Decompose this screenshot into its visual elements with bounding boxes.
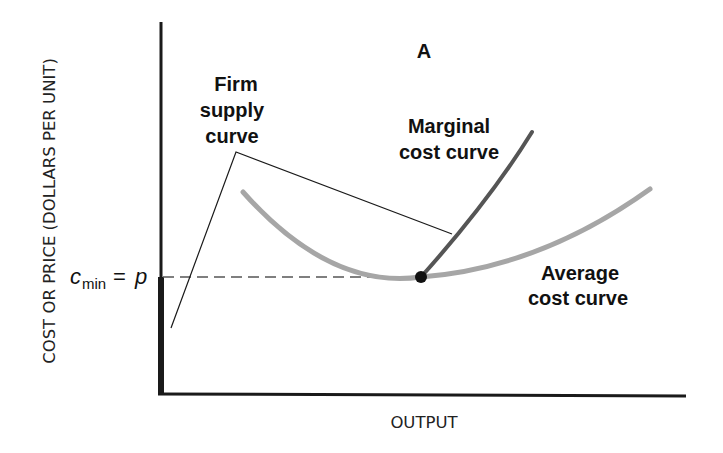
average-label-line1: Average [541, 262, 619, 284]
marginal-label-line1: Marginal [408, 115, 490, 137]
y-axis-label: COST OR PRICE (DOLLARS PER UNIT) [40, 58, 59, 364]
supply-label-line2: supply [200, 99, 265, 121]
panel-label: A [417, 40, 431, 62]
average-label-line2: cost curve [528, 287, 628, 309]
min-subscript: min [82, 275, 106, 292]
cost-symbol: c [70, 264, 81, 289]
supply-label-line3: curve [205, 125, 258, 147]
supply-pointer-lines [171, 152, 452, 328]
minimum-point [415, 271, 427, 283]
cost-curve-diagram: A Firm supply curve Marginal cost curve … [0, 0, 723, 453]
x-axis [158, 394, 686, 396]
supply-label-line1: Firm [214, 73, 257, 95]
x-axis-label: OUTPUT [390, 413, 458, 432]
price-marker-label: c min = p [70, 264, 147, 292]
price-symbol: p [134, 264, 147, 289]
equals-sign: = [113, 264, 126, 289]
marginal-label-line2: cost curve [399, 141, 499, 163]
